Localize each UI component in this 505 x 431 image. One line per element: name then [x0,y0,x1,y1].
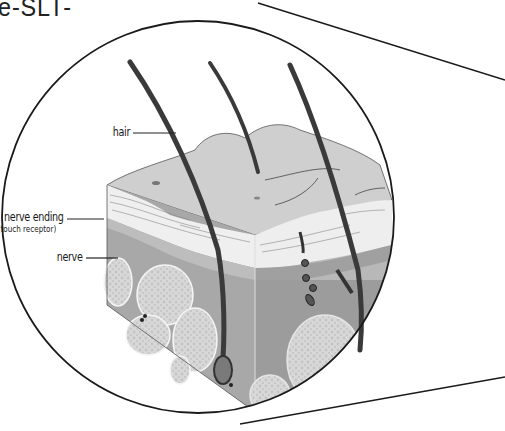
nerve-label: nerve [57,250,83,263]
diagram-canvas: e-SLT- [0,0,505,431]
hair-follicle [214,356,232,384]
nerve-ending-sublabel: (touch receptor) [0,225,56,234]
skin-diagram [0,0,505,431]
nerve-ending-label: nerve ending [4,210,64,223]
hair-label: hair [113,125,130,138]
